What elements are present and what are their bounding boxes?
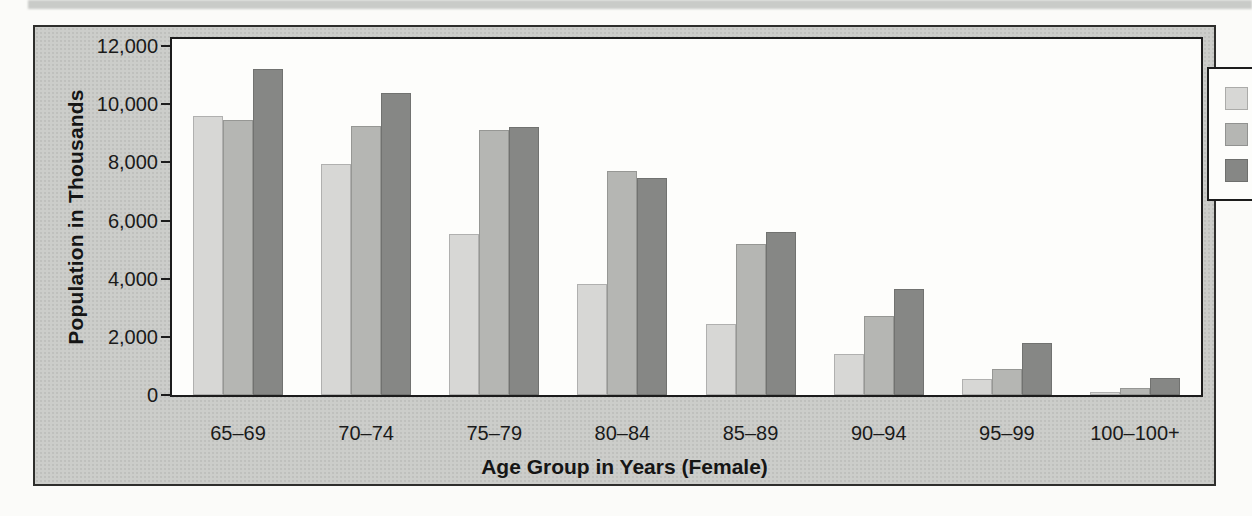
bar-group-70–74 (321, 93, 411, 395)
bar-group-65–69 (193, 69, 283, 395)
bar-2060-85–89 (766, 232, 796, 395)
plot-area: 202020402060 (170, 37, 1203, 397)
bar-group-100–100+ (1090, 378, 1180, 395)
x-tick-label: 70–74 (321, 422, 411, 448)
y-tick-label: 6,000 (63, 210, 158, 232)
x-tick-label: 75–79 (449, 422, 539, 448)
bar-2060-80–84 (637, 178, 667, 395)
bar-2020-95–99 (962, 379, 992, 395)
bars-row (193, 39, 1180, 395)
bar-2060-75–79 (509, 127, 539, 395)
bar-2040-80–84 (607, 171, 637, 395)
legend-swatch-2040 (1225, 123, 1248, 146)
scan-artifact-band (28, 0, 1252, 9)
y-tick-mark (161, 45, 170, 47)
x-axis-title: Age Group in Years (Female) (35, 455, 1214, 479)
bar-2060-95–99 (1022, 343, 1052, 395)
y-tick-mark (161, 220, 170, 222)
bar-group-95–99 (962, 343, 1052, 395)
chart-panel: Population in Thousands 02,0004,0006,000… (33, 25, 1216, 486)
bar-2040-70–74 (351, 126, 381, 395)
legend-item-2060: 2060 (1225, 159, 1252, 182)
bar-2020-65–69 (193, 116, 223, 395)
y-tick-label: 0 (63, 384, 158, 406)
x-tick-label: 80–84 (577, 422, 667, 448)
x-axis-labels: 65–6970–7475–7980–8485–8990–9495–99100–1… (193, 422, 1180, 448)
legend: 202020402060 (1207, 67, 1252, 201)
x-tick-label: 65–69 (193, 422, 283, 448)
bar-2020-70–74 (321, 164, 351, 395)
bar-2040-90–94 (864, 316, 894, 395)
y-tick-label: 8,000 (63, 151, 158, 173)
y-tick-mark (161, 278, 170, 280)
y-tick-label: 4,000 (63, 268, 158, 290)
y-tick-label: 10,000 (63, 93, 158, 115)
bar-2060-70–74 (381, 93, 411, 395)
x-tick-label: 85–89 (706, 422, 796, 448)
bar-2060-90–94 (894, 289, 924, 395)
bar-2020-90–94 (834, 354, 864, 395)
y-tick-mark (161, 161, 170, 163)
y-tick-mark (161, 394, 170, 396)
bar-2060-100–100+ (1150, 378, 1180, 395)
bar-2060-65–69 (253, 69, 283, 395)
bar-2020-75–79 (449, 234, 479, 395)
y-tick-mark (161, 336, 170, 338)
y-tick-label: 12,000 (63, 35, 158, 57)
legend-item-2040: 2040 (1225, 123, 1252, 146)
y-tick-label: 2,000 (63, 326, 158, 348)
legend-swatch-2020 (1225, 87, 1248, 110)
bar-2040-65–69 (223, 120, 253, 395)
bar-2040-75–79 (479, 130, 509, 395)
bar-group-80–84 (577, 171, 667, 395)
legend-item-2020: 2020 (1225, 87, 1252, 110)
x-tick-label: 95–99 (962, 422, 1052, 448)
bar-2040-100–100+ (1120, 388, 1150, 395)
bar-2040-95–99 (992, 369, 1022, 395)
bar-2020-100–100+ (1090, 392, 1120, 395)
bar-2020-85–89 (706, 324, 736, 395)
bar-2040-85–89 (736, 244, 766, 395)
bar-group-90–94 (834, 289, 924, 395)
bar-group-85–89 (706, 232, 796, 395)
y-tick-mark (161, 103, 170, 105)
x-tick-label: 100–100+ (1090, 422, 1180, 448)
bar-2020-80–84 (577, 284, 607, 395)
legend-swatch-2060 (1225, 159, 1248, 182)
bar-group-75–79 (449, 127, 539, 395)
x-tick-label: 90–94 (834, 422, 924, 448)
